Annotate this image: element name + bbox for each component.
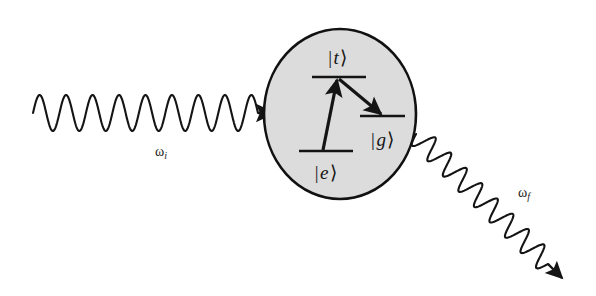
ket-symbol-e: e — [319, 162, 330, 183]
omega-subscript-outgoing: f — [527, 191, 530, 202]
outgoing-photon-arrowhead — [548, 264, 562, 278]
incoming-frequency-label: ωi — [155, 144, 167, 160]
outgoing-photon-group — [412, 134, 562, 278]
incoming-photon-group — [33, 95, 274, 131]
energy-level-label-e: |e⟩ — [315, 161, 338, 184]
omega-symbol-incoming: ω — [155, 144, 164, 159]
outgoing-frequency-label: ωf — [518, 185, 530, 201]
ket-angle-e: ⟩ — [330, 162, 338, 183]
omega-symbol-outgoing: ω — [518, 185, 527, 200]
ket-angle-g: ⟩ — [387, 129, 395, 150]
ket-symbol-g: g — [375, 129, 387, 150]
ket-symbol-t: t — [333, 47, 341, 68]
raman-scattering-diagram: |t⟩ |g⟩ |e⟩ ωi ωf — [0, 0, 596, 296]
diagram-canvas — [0, 0, 596, 296]
energy-level-label-t: |t⟩ — [328, 46, 348, 69]
ket-angle-t: ⟩ — [340, 47, 348, 68]
incoming-photon-wave — [33, 95, 258, 131]
energy-level-label-g: |g⟩ — [371, 128, 395, 151]
omega-subscript-incoming: i — [164, 150, 167, 161]
